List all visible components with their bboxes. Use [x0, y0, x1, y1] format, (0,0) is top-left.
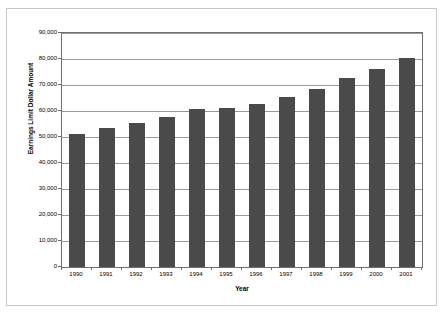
- y-axis-tick-label: 10,000: [39, 237, 57, 244]
- x-axis-tick-label: 1992: [121, 270, 151, 278]
- gridline: [62, 189, 422, 190]
- x-axis-tick-label: 1995: [211, 270, 241, 278]
- y-axis-tick-label: 60,000: [39, 107, 57, 114]
- bar: [399, 58, 415, 267]
- x-axis-title: Year: [61, 285, 423, 292]
- bar: [369, 69, 385, 267]
- gridline: [62, 111, 422, 112]
- bar: [69, 134, 85, 267]
- y-axis-tick-label: 90,000: [39, 29, 57, 36]
- bar: [309, 89, 325, 267]
- chart-canvas: Earnings Limit Dollar Amount 010,00020,0…: [7, 9, 436, 305]
- y-axis-tick-label: 40,000: [39, 159, 57, 166]
- y-axis-tick-labels: 010,00020,00030,00040,00050,00060,00070,…: [15, 32, 57, 266]
- bar: [279, 97, 295, 267]
- gridline: [62, 137, 422, 138]
- x-axis-tick-label: 1999: [331, 270, 361, 278]
- y-axis-tick-label: 70,000: [39, 81, 57, 88]
- x-axis-tick-label: 1994: [181, 270, 211, 278]
- bar: [129, 123, 145, 267]
- gridline: [62, 241, 422, 242]
- x-axis-tick-label: 1993: [151, 270, 181, 278]
- gridline: [62, 215, 422, 216]
- y-axis-tick-label: 50,000: [39, 133, 57, 140]
- bar: [219, 108, 235, 267]
- x-axis-tick-label: 2000: [361, 270, 391, 278]
- y-axis-tick-label: 20,000: [39, 211, 57, 218]
- chart-frame: Earnings Limit Dollar Amount 010,00020,0…: [6, 8, 437, 306]
- x-axis-tick-label: 1990: [61, 270, 91, 278]
- y-axis-tick-label: 30,000: [39, 185, 57, 192]
- x-axis-tick-label: 1996: [241, 270, 271, 278]
- x-axis-tick-label: 1998: [301, 270, 331, 278]
- gridline: [62, 59, 422, 60]
- gridline: [62, 33, 422, 34]
- x-axis-tick-label: 2001: [391, 270, 421, 278]
- gridline: [62, 163, 422, 164]
- bar: [249, 104, 265, 267]
- y-axis-tick-label: 80,000: [39, 55, 57, 62]
- bar: [339, 78, 355, 267]
- x-axis-tick-labels: 1990199119921993199419951996199719981999…: [61, 270, 423, 282]
- x-axis-tick-label: 1997: [271, 270, 301, 278]
- bar: [99, 128, 115, 267]
- gridline: [62, 85, 422, 86]
- y-axis-tick-label: 0: [54, 263, 57, 270]
- bar: [159, 117, 175, 267]
- bar: [189, 109, 205, 267]
- plot-area: [61, 32, 423, 268]
- x-axis-tick-label: 1991: [91, 270, 121, 278]
